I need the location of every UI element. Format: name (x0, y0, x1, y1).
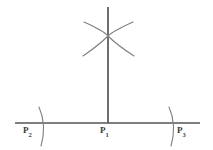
point-label-p1: P1 (100, 126, 109, 137)
compass-arc-upper-left (84, 22, 134, 56)
point-label-p1-subscript: 1 (106, 131, 109, 138)
point-label-p3-base: P (177, 125, 183, 135)
compass-arc-mark-p2 (39, 107, 44, 146)
point-label-p2-base: P (23, 125, 29, 135)
point-label-p1-base: P (100, 125, 106, 135)
point-label-p3: P3 (177, 126, 186, 137)
compass-arc-mark-p3 (169, 107, 174, 146)
point-label-p2-subscript: 2 (29, 131, 32, 138)
point-label-p3-subscript: 3 (183, 131, 186, 138)
point-label-p2: P2 (23, 126, 32, 137)
geometric-construction-figure: P2 P1 P3 (0, 0, 213, 150)
